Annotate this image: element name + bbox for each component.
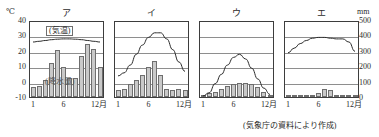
chart-panel-ウ — [199, 21, 274, 98]
x-axis-tick-6: 6 — [61, 101, 65, 109]
right-axis-tick-200: 200 — [359, 63, 379, 71]
x-axis-tick-12月: 12月 — [346, 101, 362, 109]
right-axis-tick-300: 300 — [359, 48, 379, 56]
x-axis-tick-12月: 12月 — [261, 101, 277, 109]
x-axis-tick-1: 1 — [286, 101, 290, 109]
right-axis-tick-400: 400 — [359, 32, 379, 40]
left-axis-tick-0: 0 — [2, 79, 26, 87]
chart-panel-ア: (気温)(降水量) — [29, 21, 104, 98]
temperature-line — [200, 22, 273, 98]
temperature-series-label: (気温) — [46, 26, 73, 36]
temperature-line — [285, 22, 358, 98]
panel-title-3: エ — [284, 9, 359, 18]
left-axis-unit-label: ℃ — [6, 8, 15, 16]
precipitation-series-label: (降水量) — [45, 78, 74, 86]
left-axis-tick-30: 30 — [2, 32, 26, 40]
climate-chart-figure: ℃ mm 403020100-10 5004003002001000 ア(気温)… — [0, 0, 379, 137]
panel-title-1: イ — [114, 9, 189, 18]
x-axis-tick-12月: 12月 — [176, 101, 192, 109]
source-caption: (気象庁の資料により作成) — [243, 122, 336, 130]
x-axis-tick-6: 6 — [316, 101, 320, 109]
right-axis-tick-100: 100 — [359, 79, 379, 87]
x-axis-tick-6: 6 — [146, 101, 150, 109]
right-axis-tick-0: 0 — [359, 94, 379, 102]
x-axis-tick-1: 1 — [201, 101, 205, 109]
left-axis-tick-40: 40 — [2, 17, 26, 25]
x-axis-tick-6: 6 — [231, 101, 235, 109]
chart-panel-イ — [114, 21, 189, 98]
temperature-line — [115, 22, 188, 98]
panel-title-2: ウ — [199, 9, 274, 18]
x-axis-tick-12月: 12月 — [91, 101, 107, 109]
left-axis-tick-20: 20 — [2, 48, 26, 56]
left-axis-tick-10: 10 — [2, 63, 26, 71]
x-axis-tick-1: 1 — [116, 101, 120, 109]
right-axis-tick-500: 500 — [359, 17, 379, 25]
panel-title-0: ア — [29, 9, 104, 18]
chart-panel-エ — [284, 21, 359, 98]
x-axis-tick-1: 1 — [31, 101, 35, 109]
left-axis-tick-minus10: -10 — [2, 94, 26, 102]
